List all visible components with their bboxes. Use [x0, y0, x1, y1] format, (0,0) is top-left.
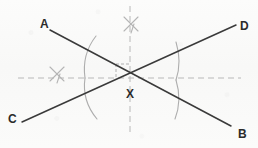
- point-label-d: D: [240, 20, 249, 32]
- construction-cross-group: [50, 17, 138, 83]
- arc-left-lower-icon: [84, 78, 97, 119]
- geometry-figure: A B C D X: [0, 0, 258, 148]
- segment-cd-line: [22, 25, 236, 122]
- arc-left-upper-icon: [84, 36, 96, 78]
- arc-right-lower-icon: [175, 80, 179, 119]
- point-label-x: X: [126, 88, 134, 100]
- cross-mark-left-icon: [50, 67, 64, 83]
- point-label-c: C: [8, 113, 17, 125]
- main-segment-group: [22, 25, 236, 126]
- point-label-b: B: [238, 128, 247, 140]
- arc-right-upper-icon: [176, 42, 179, 80]
- figure-canvas: [0, 0, 258, 148]
- cross-mark-top-icon: [124, 17, 138, 33]
- point-label-a: A: [40, 18, 49, 30]
